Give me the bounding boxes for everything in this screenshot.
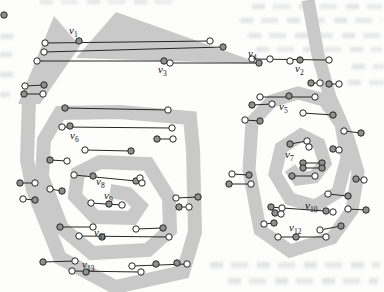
filled-endpoint: [345, 193, 351, 199]
open-endpoint: [336, 147, 342, 153]
filled-endpoint: [319, 165, 325, 171]
open-endpoint: [207, 38, 213, 44]
filled-endpoint: [17, 180, 23, 186]
open-endpoint: [341, 128, 347, 134]
filled-endpoint: [272, 210, 278, 216]
filled-endpoint: [47, 157, 53, 163]
filled-endpoint: [353, 176, 359, 182]
vertex-label-v2: v2: [295, 62, 304, 77]
filled-endpoint: [128, 148, 134, 154]
spiral-segments-figure: v1v2v3v4v5v6v7v8v9v10v11v12v13: [0, 0, 384, 292]
open-endpoint: [165, 107, 171, 113]
segment: [136, 228, 163, 229]
open-endpoint: [336, 81, 342, 87]
filled-endpoint: [286, 93, 292, 99]
filled-endpoint: [287, 141, 293, 147]
vertex-label-v7: v7: [285, 148, 294, 163]
filled-endpoint: [40, 259, 46, 265]
open-endpoint: [69, 268, 75, 274]
open-endpoint: [22, 83, 28, 89]
filled-endpoint: [41, 82, 47, 88]
open-endpoint: [304, 138, 310, 144]
open-endpoint: [267, 56, 273, 62]
open-endpoint: [326, 57, 332, 63]
open-endpoint: [59, 124, 65, 130]
filled-endpoint: [358, 130, 364, 136]
open-endpoint: [47, 186, 53, 192]
filled-endpoint: [176, 204, 182, 210]
open-endpoint: [361, 177, 367, 183]
filled-endpoint: [76, 38, 82, 44]
vertex-label-v6: v6: [70, 129, 79, 144]
open-endpoint: [330, 209, 336, 215]
open-endpoint: [257, 94, 263, 100]
vertex-label-v3: v3: [158, 63, 167, 78]
open-endpoint: [40, 91, 46, 97]
open-endpoint: [279, 205, 285, 211]
filled-endpoint: [256, 60, 262, 66]
open-endpoint: [76, 233, 82, 239]
filled-endpoint: [249, 102, 255, 108]
open-endpoint: [261, 221, 267, 227]
filled-endpoint: [300, 165, 306, 171]
open-endpoint: [317, 80, 323, 86]
filled-endpoint: [330, 146, 336, 152]
open-endpoint: [20, 196, 26, 202]
open-endpoint: [129, 263, 135, 269]
filled-endpoint: [32, 197, 38, 203]
filled-endpoint: [271, 220, 277, 226]
open-endpoint: [71, 172, 77, 178]
filled-endpoint: [338, 223, 344, 229]
open-endpoint: [139, 180, 145, 186]
open-endpoint: [242, 117, 248, 123]
filled-endpoint: [195, 194, 201, 200]
filled-endpoint: [1, 12, 7, 18]
filled-endpoint: [308, 80, 314, 86]
right-spiral: [249, 0, 358, 251]
filled-endpoint: [268, 204, 274, 210]
filled-endpoint: [326, 81, 332, 87]
filled-endpoint: [21, 91, 27, 97]
open-endpoint: [312, 94, 318, 100]
open-endpoint: [312, 173, 318, 179]
segment: [85, 150, 131, 151]
open-endpoint: [138, 269, 144, 275]
open-endpoint: [323, 234, 329, 240]
open-endpoint: [170, 136, 176, 142]
open-endpoint: [317, 227, 323, 233]
filled-endpoint: [330, 112, 336, 118]
filled-endpoint: [174, 260, 180, 266]
filled-endpoint: [220, 44, 226, 50]
open-endpoint: [287, 58, 293, 64]
vertex-label-v8: v8: [96, 175, 105, 190]
open-endpoint: [173, 195, 179, 201]
open-endpoint: [119, 202, 125, 208]
filled-endpoint: [154, 136, 160, 142]
open-endpoint: [166, 234, 172, 240]
open-endpoint: [278, 211, 284, 217]
open-endpoint: [34, 58, 40, 64]
open-endpoint: [88, 200, 94, 206]
open-endpoint: [300, 110, 306, 116]
left-top-wedge: [76, 12, 262, 64]
filled-endpoint: [246, 172, 252, 178]
open-endpoint: [275, 234, 281, 240]
open-endpoint: [32, 180, 38, 186]
open-endpoint: [133, 226, 139, 232]
open-endpoint: [82, 147, 88, 153]
filled-endpoint: [57, 224, 63, 230]
filled-endpoint: [59, 188, 65, 194]
filled-endpoint: [62, 105, 68, 111]
filled-endpoint: [153, 261, 159, 267]
open-endpoint: [41, 49, 47, 55]
filled-endpoint: [257, 118, 263, 124]
segment: [62, 127, 172, 128]
filled-endpoint: [363, 207, 369, 213]
open-endpoint: [184, 261, 190, 267]
open-endpoint: [169, 125, 175, 131]
open-endpoint: [269, 101, 275, 107]
open-endpoint: [345, 206, 351, 212]
filled-endpoint: [226, 181, 232, 187]
open-endpoint: [72, 258, 78, 264]
filled-endpoint: [289, 173, 295, 179]
